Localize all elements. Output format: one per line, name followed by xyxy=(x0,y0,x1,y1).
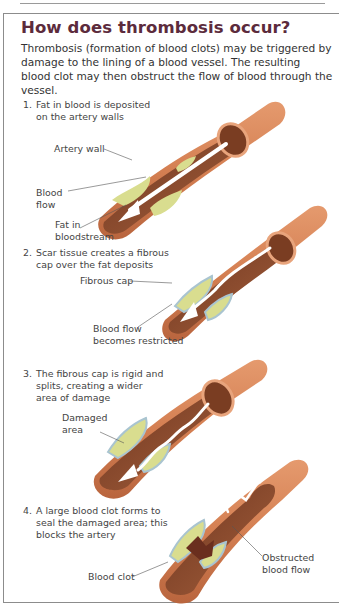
step-4-number: 4. xyxy=(23,505,36,517)
step-2-number: 2. xyxy=(23,247,36,259)
step-1-number: 1. xyxy=(23,99,36,111)
artery-stage-2 xyxy=(162,206,327,342)
label-obstructed-blood-flow: Obstructed blood flow xyxy=(262,552,314,576)
label-blood-clot: Blood clot xyxy=(88,571,135,583)
step-1-text: 1.Fat in blood is deposited on the arter… xyxy=(23,99,150,123)
step-3-text: 3.The fibrous cap is rigid and splits, c… xyxy=(23,368,163,404)
step-3-number: 3. xyxy=(23,368,36,380)
label-fat-in-bloodstream: Fat in bloodstream xyxy=(55,219,114,243)
label-artery-wall: Artery wall xyxy=(54,143,105,155)
label-blood-flow-restricted: Blood flow becomes restricted xyxy=(93,323,183,347)
label-damaged-area: Damaged area xyxy=(62,412,108,436)
step-2-text: 2.Scar tissue creates a fibrous cap over… xyxy=(23,247,169,271)
label-fibrous-cap: Fibrous cap xyxy=(80,275,133,287)
artery-stage-4 xyxy=(159,460,308,604)
step-4-text: 4.A large blood clot forms to seal the d… xyxy=(23,505,168,541)
label-blood-flow: Blood flow xyxy=(36,187,62,211)
